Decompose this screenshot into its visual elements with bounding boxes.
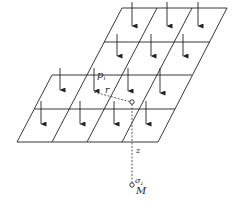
label-z: z bbox=[135, 146, 141, 155]
load-arrows bbox=[41, 2, 198, 124]
grid-lines bbox=[17, 8, 227, 142]
label-r: r bbox=[105, 85, 110, 95]
point-m-icon bbox=[130, 183, 134, 187]
label-p: pi bbox=[97, 69, 105, 81]
load-grid-diagram: pi r z σz M bbox=[0, 0, 234, 209]
surface-point-icon bbox=[130, 100, 134, 104]
label-m: M bbox=[135, 185, 147, 196]
